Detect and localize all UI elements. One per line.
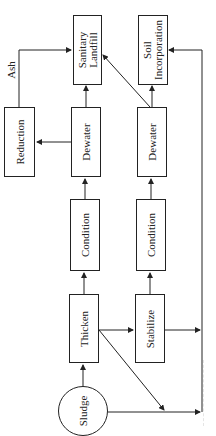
- sanitary-label-line1: Sanitary: [76, 32, 88, 69]
- arrow-reduction-landfill-ash: [19, 50, 71, 107]
- reduction-box: Reduction: [4, 107, 35, 177]
- stabilize-box: Stabilize: [135, 294, 165, 363]
- dewater-box-1: Dewater: [71, 107, 101, 177]
- thicken-label: Thicken: [79, 310, 90, 346]
- condition-label-1: Condition: [80, 213, 91, 257]
- figure-caption-fragment: [203, 360, 216, 426]
- landfill-label-line2: Landfill: [87, 32, 99, 67]
- dewater-label-1: Dewater: [81, 123, 92, 160]
- sanitary-landfill-box: Sanitary Landfill: [73, 15, 102, 85]
- condition-box-2: Condition: [136, 199, 166, 271]
- dewater-box-2: Dewater: [137, 107, 167, 177]
- condition-box-1: Condition: [70, 199, 100, 271]
- soil-incorporation-label: Soil Incorporation: [142, 20, 164, 80]
- condition-label-2: Condition: [146, 213, 157, 257]
- stabilize-label: Stabilize: [145, 309, 156, 348]
- sludge-node: Sludge: [58, 386, 108, 436]
- arrow-trunk-soil: [169, 50, 202, 412]
- reduction-label: Reduction: [14, 119, 25, 164]
- sludge-label: Sludge: [78, 396, 89, 427]
- sanitary-landfill-label: Sanitary Landfill: [77, 32, 99, 69]
- incorporation-label-line2: Incorporation: [152, 20, 164, 80]
- dewater-label-2: Dewater: [147, 123, 158, 160]
- ash-label: Ash: [5, 61, 17, 79]
- soil-incorporation-box: Soil Incorporation: [138, 15, 168, 85]
- thicken-box: Thicken: [69, 294, 99, 363]
